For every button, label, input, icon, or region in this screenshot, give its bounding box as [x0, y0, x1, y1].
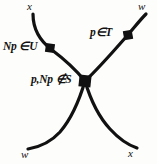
left-node	[45, 43, 55, 53]
node-label-left: Np ∈U	[3, 41, 37, 53]
corner-label-bottom-left: w	[21, 149, 28, 160]
diagram-graphic	[0, 0, 157, 164]
node-label-right: p∈T	[90, 27, 112, 39]
lower-right-branch	[85, 81, 137, 148]
upper-left-branch	[33, 14, 85, 81]
node-label-center: p,Np ∉S	[31, 74, 72, 86]
upper-right-branch	[85, 14, 146, 81]
corner-label-top-right: w	[138, 1, 145, 12]
center-node	[78, 74, 91, 87]
corner-label-top-left: x	[27, 1, 32, 12]
lower-left-branch	[28, 81, 85, 149]
diagram-canvas: x w w x Np ∈U p∈T p,Np ∉S	[0, 0, 157, 164]
corner-label-bottom-right: x	[128, 148, 133, 159]
right-node	[123, 30, 133, 40]
